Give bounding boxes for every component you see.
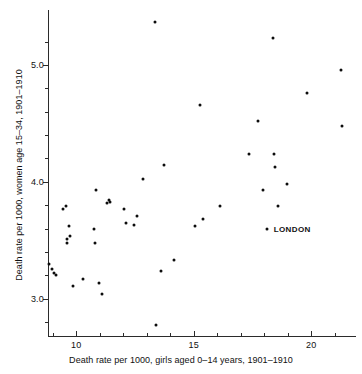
data-point [66,241,69,244]
data-point [136,214,139,217]
data-point [163,164,166,167]
data-point [101,292,104,295]
data-point [271,37,274,40]
data-point [285,183,288,186]
data-point [71,284,74,287]
data-point [202,218,205,221]
data-point [123,207,126,210]
x-axis-tick-label: 15 [179,340,209,350]
data-point [340,124,343,127]
data-point [155,324,158,327]
x-axis-tick-label: 20 [296,340,326,350]
data-point [305,91,308,94]
data-point [109,200,112,203]
annotation-london-label: LONDON [274,224,311,233]
data-point [218,205,221,208]
data-point [64,205,67,208]
data-point [272,152,275,155]
data-point [193,225,196,228]
data-point [142,178,145,181]
data-point [69,234,72,237]
data-point [68,225,71,228]
x-axis-title: Death rate per 1000, girls aged 0–14 yea… [0,355,362,365]
data-point [273,165,276,168]
data-point [92,227,95,230]
data-point [159,269,162,272]
data-point [172,259,175,262]
x-axis-line [48,336,356,337]
scatter-plot-figure: 3.04.05.0101520 LONDON Death rate per 10… [0,0,362,374]
data-point [132,223,135,226]
data-point [257,120,260,123]
data-point [94,241,97,244]
data-point [248,152,251,155]
y-axis-title: Death rate per 1000, women age 15–34, 19… [14,50,24,300]
data-point [48,262,51,265]
data-point [265,227,268,230]
data-point [262,188,265,191]
data-point [82,277,85,280]
plot-area [48,10,356,336]
data-point [153,20,156,23]
data-point [55,274,58,277]
data-point [198,103,201,106]
data-point [339,68,342,71]
data-point [97,282,100,285]
x-axis-tick-label: 10 [61,340,91,350]
data-point [124,221,127,224]
data-point [277,205,280,208]
data-point [95,188,98,191]
